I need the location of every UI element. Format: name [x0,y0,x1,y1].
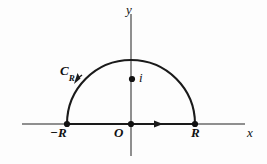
origin-label: O [114,126,123,139]
y-axis-label: y [126,3,132,16]
right-endpoint-label: R [191,126,200,139]
pole-dot [129,76,135,82]
contour-label: CR [60,64,75,81]
figure-canvas: y x O −R R i CR [0,0,267,164]
x-axis-label: x [247,126,253,139]
origin-dot [128,121,134,127]
left-endpoint-label: −R [50,126,67,139]
pole-label: i [139,71,143,84]
contour-label-base: C [60,63,69,78]
contour-label-subscript: R [69,73,75,83]
contour-diagram-svg [0,0,267,164]
segment-direction-arrowhead [154,120,163,127]
